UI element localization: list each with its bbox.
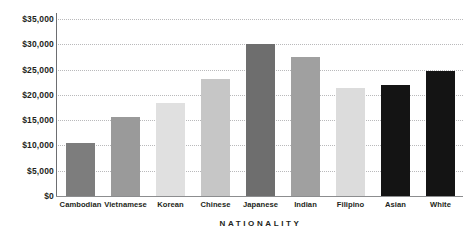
x-axis-tick-label: Vietnamese: [103, 200, 148, 209]
x-axis-tick-label: Cambodian: [58, 200, 103, 209]
bar-slot: [418, 19, 463, 196]
bar-slot: [58, 19, 103, 196]
x-axis-tick-label: Japanese: [238, 200, 283, 209]
bar-series: [58, 19, 463, 196]
bar[interactable]: [156, 103, 185, 196]
x-axis-tick-label: Indian: [283, 200, 328, 209]
bar-chart: $0$5,000$10,000$15,000$20,000$25,000$30,…: [0, 0, 469, 237]
bar[interactable]: [336, 88, 365, 196]
bar-slot: [193, 19, 238, 196]
bar[interactable]: [201, 79, 230, 196]
bar-slot: [283, 19, 328, 196]
x-axis-title: NATIONALITY: [58, 219, 463, 228]
x-axis-tick-label: Filipino: [328, 200, 373, 209]
x-axis-line: [56, 196, 463, 197]
bar-slot: [373, 19, 418, 196]
bar-slot: [103, 19, 148, 196]
bar[interactable]: [111, 117, 140, 196]
bar[interactable]: [291, 57, 320, 196]
bar-slot: [238, 19, 283, 196]
x-axis-tick-label: Asian: [373, 200, 418, 209]
bar-slot: [148, 19, 193, 196]
y-axis-tick-labels: $0$5,000$10,000$15,000$20,000$25,000$30,…: [0, 0, 54, 237]
x-axis-tick-labels: CambodianVietnameseKoreanChineseJapanese…: [58, 200, 463, 209]
y-axis-tick-label: $35,000: [0, 14, 54, 24]
bar[interactable]: [246, 44, 275, 196]
x-axis-tick-label: Chinese: [193, 200, 238, 209]
y-axis-tick-label: $15,000: [0, 115, 54, 125]
y-axis-line: [56, 13, 57, 197]
x-axis-tick-label: Korean: [148, 200, 193, 209]
bar[interactable]: [66, 143, 95, 196]
y-axis-tick-label: $10,000: [0, 140, 54, 150]
y-axis-tick-label: $20,000: [0, 90, 54, 100]
plot-area: [58, 19, 463, 196]
x-axis-tick-label: White: [418, 200, 463, 209]
y-axis-tick-label: $5,000: [0, 166, 54, 176]
y-axis-tick-label: $30,000: [0, 39, 54, 49]
y-axis-tick-label: $0: [0, 191, 54, 201]
bar[interactable]: [381, 85, 410, 196]
y-axis-tick-label: $25,000: [0, 65, 54, 75]
bar-slot: [328, 19, 373, 196]
bar[interactable]: [426, 71, 455, 196]
